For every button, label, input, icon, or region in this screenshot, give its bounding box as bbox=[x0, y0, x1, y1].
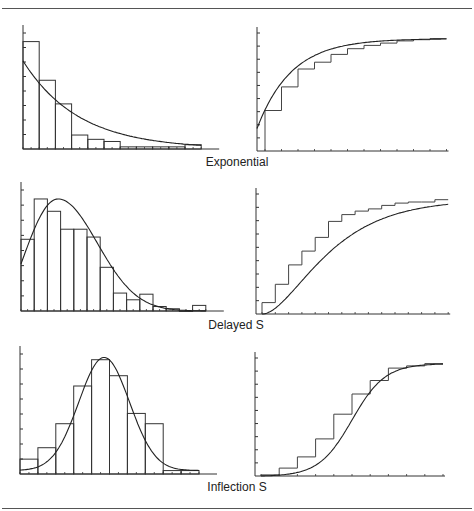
histogram-bar bbox=[74, 229, 87, 311]
empirical-cdf-step bbox=[262, 200, 448, 314]
histogram-bar bbox=[47, 211, 60, 311]
histogram-bar bbox=[39, 80, 55, 149]
histogram-bar bbox=[92, 360, 110, 474]
histogram-bar bbox=[100, 267, 113, 311]
fitted-cdf-curve bbox=[262, 204, 448, 314]
fitted-cdf-curve bbox=[261, 364, 443, 476]
fitted-cdf-curve bbox=[257, 39, 447, 129]
histogram-bar bbox=[23, 42, 39, 149]
histogram-bar bbox=[145, 424, 163, 474]
figure: Exponential Delayed S Inflection S bbox=[0, 0, 474, 511]
histogram-bar bbox=[38, 448, 56, 474]
caption-delayed-s: Delayed S bbox=[208, 318, 263, 332]
caption-exponential: Exponential bbox=[206, 155, 269, 169]
histogram-bar bbox=[74, 386, 92, 474]
histogram-bar bbox=[72, 135, 88, 149]
histogram-bar bbox=[87, 237, 100, 311]
histogram-bar bbox=[113, 293, 126, 311]
histogram-bar bbox=[20, 459, 38, 474]
caption-inflection-s: Inflection S bbox=[207, 480, 266, 494]
empirical-cdf-step bbox=[265, 39, 447, 151]
histogram-bar bbox=[127, 413, 145, 474]
histogram-bar bbox=[61, 229, 74, 311]
fitted-density-curve bbox=[23, 61, 201, 145]
plots-canvas bbox=[0, 0, 474, 511]
